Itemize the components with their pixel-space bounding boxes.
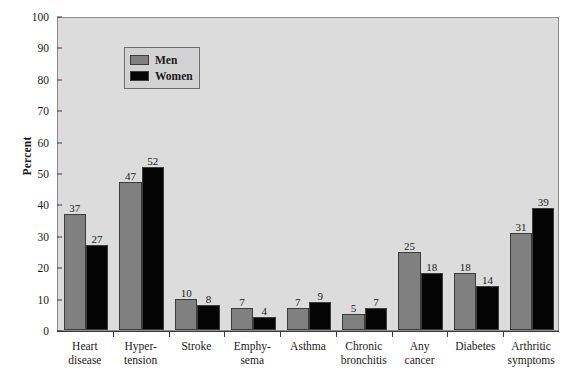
bar-women: 9	[309, 302, 331, 330]
legend-label-women: Women	[155, 70, 193, 82]
bar-group: 3139	[510, 18, 555, 330]
plot-area: 37274752108747957251818143139 Men Women	[57, 17, 559, 331]
legend-item-women: Women	[130, 68, 194, 84]
y-tick-mark	[57, 79, 62, 80]
legend-label-men: Men	[155, 54, 177, 66]
x-tick-mark	[392, 331, 393, 337]
y-tick-label: 0	[43, 325, 49, 337]
bar-group: 74	[231, 18, 276, 330]
bar-value-label: 7	[295, 296, 301, 308]
x-tick-label: Chronicbronchitis	[341, 339, 387, 367]
y-axis: 0102030405060708090100	[0, 0, 57, 375]
y-tick-mark	[57, 48, 62, 49]
bar-value-label: 18	[426, 261, 437, 273]
bar-group: 3727	[64, 18, 109, 330]
x-tick-label: Arthriticsymptoms	[507, 339, 554, 367]
x-tick-label: Anycancer	[405, 339, 435, 367]
bar-value-label: 7	[239, 296, 245, 308]
bar-women: 52	[142, 167, 164, 330]
y-tick-mark	[57, 205, 62, 206]
x-tick-mark	[447, 331, 448, 337]
bar-men: 25	[398, 252, 420, 331]
bar-men: 47	[119, 182, 141, 330]
bar-value-label: 52	[147, 155, 158, 167]
x-tick-label: Diabetes	[455, 339, 495, 353]
bar-value-label: 18	[460, 261, 471, 273]
legend-swatch-women-icon	[130, 71, 149, 81]
y-tick-mark	[57, 236, 62, 237]
x-tick-label: Heartdisease	[68, 339, 101, 367]
y-tick-label: 40	[38, 199, 50, 211]
bar-men: 31	[510, 233, 532, 330]
y-tick-label: 30	[38, 231, 50, 243]
bar-men: 7	[231, 308, 253, 330]
bar-value-label: 31	[515, 221, 526, 233]
x-tick-label: Hyper-tension	[124, 339, 157, 367]
bar-value-label: 5	[351, 302, 357, 314]
bar-women: 39	[532, 208, 554, 330]
x-axis-line	[57, 331, 559, 332]
bar-value-label: 14	[482, 274, 493, 286]
bar-value-label: 4	[262, 305, 268, 317]
bar-men: 7	[287, 308, 309, 330]
bar-men: 37	[64, 214, 86, 330]
bar-men: 5	[342, 314, 364, 330]
x-tick-mark	[224, 331, 225, 337]
y-tick-label: 10	[38, 294, 50, 306]
x-tick-mark	[336, 331, 337, 337]
y-tick-mark	[57, 111, 62, 112]
bar-group: 1814	[454, 18, 499, 330]
x-tick-label: Emphy-sema	[234, 339, 271, 367]
x-tick-label: Stroke	[181, 339, 211, 353]
y-tick-label: 100	[32, 11, 49, 23]
y-tick-label: 50	[38, 168, 50, 180]
bar-women: 14	[476, 286, 498, 330]
bar-value-label: 27	[92, 233, 103, 245]
y-tick-mark	[57, 299, 62, 300]
bar-women: 8	[197, 305, 219, 330]
y-tick-label: 90	[38, 42, 50, 54]
x-tick-label: Asthma	[290, 339, 326, 353]
y-tick-mark	[57, 268, 62, 269]
bar-chart: Percent 0102030405060708090100 372747521…	[0, 0, 567, 375]
y-tick-label: 70	[38, 105, 50, 117]
bar-men: 18	[454, 273, 476, 330]
legend-item-men: Men	[130, 52, 194, 68]
bar-women: 4	[253, 317, 275, 330]
bar-value-label: 37	[69, 202, 80, 214]
x-tick-mark	[503, 331, 504, 337]
y-tick-label: 60	[38, 137, 50, 149]
bar-group: 57	[342, 18, 387, 330]
y-tick-mark	[57, 174, 62, 175]
y-tick-mark	[57, 17, 62, 18]
bar-women: 7	[365, 308, 387, 330]
bar-value-label: 9	[317, 290, 323, 302]
x-tick-mark	[113, 331, 114, 337]
bar-men: 10	[175, 299, 197, 330]
bar-group: 79	[287, 18, 332, 330]
y-tick-mark	[57, 142, 62, 143]
x-tick-mark	[169, 331, 170, 337]
bar-value-label: 39	[538, 196, 549, 208]
bar-women: 27	[86, 245, 108, 330]
bar-value-label: 47	[125, 170, 136, 182]
bar-value-label: 25	[404, 240, 415, 252]
bar-women: 18	[421, 273, 443, 330]
y-tick-mark	[57, 331, 62, 332]
legend-swatch-men-icon	[130, 55, 149, 65]
bar-value-label: 8	[206, 293, 212, 305]
bar-group: 2518	[398, 18, 443, 330]
y-tick-label: 80	[38, 74, 50, 86]
y-tick-label: 20	[38, 262, 50, 274]
x-tick-mark	[280, 331, 281, 337]
bar-value-label: 7	[373, 296, 379, 308]
legend: Men Women	[124, 47, 200, 89]
bar-value-label: 10	[181, 287, 192, 299]
